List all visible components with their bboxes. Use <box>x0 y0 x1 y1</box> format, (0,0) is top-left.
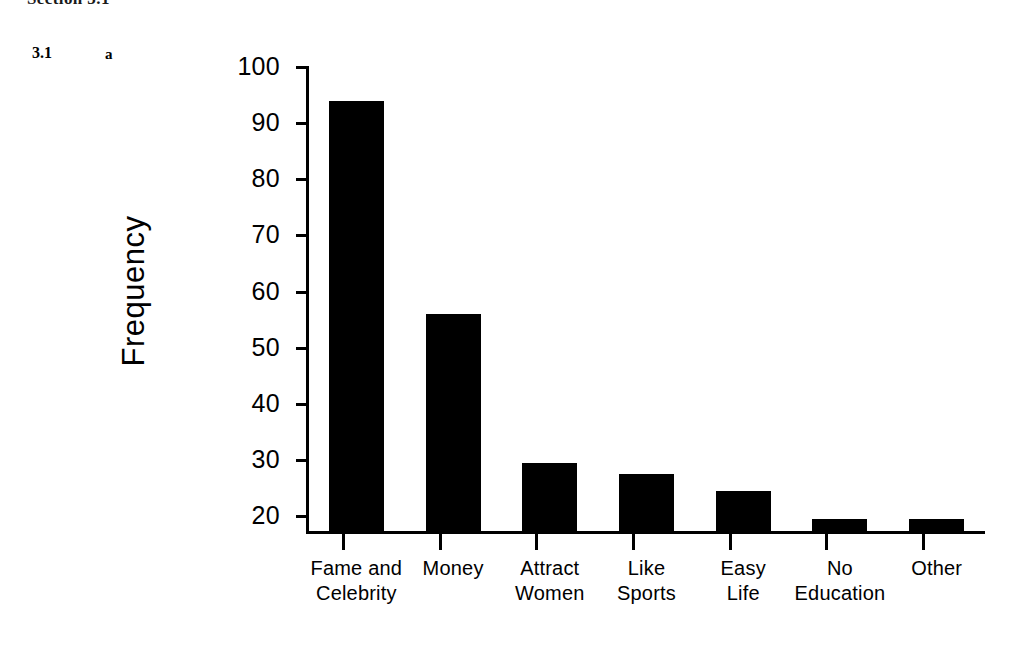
y-axis-title: Frequency <box>117 181 151 401</box>
y-tick-label: 100 <box>216 54 280 79</box>
bar <box>522 463 577 533</box>
y-tick-label: 50 <box>216 335 280 360</box>
bar <box>426 314 481 533</box>
x-tick-mark <box>729 534 732 550</box>
y-tick-label: 20 <box>216 503 280 528</box>
bar <box>716 491 771 533</box>
x-tick-mark <box>439 534 442 550</box>
y-tick-label: 90 <box>216 110 280 135</box>
bar <box>619 474 674 533</box>
y-tick-label: 80 <box>216 166 280 191</box>
x-tick-mark <box>825 534 828 550</box>
y-tick-label: 70 <box>216 222 280 247</box>
x-tick-mark <box>342 534 345 550</box>
bar <box>909 519 964 533</box>
x-tick-mark <box>632 534 635 550</box>
bar <box>812 519 867 533</box>
y-tick-label: 60 <box>216 279 280 304</box>
x-category-label: Other <box>872 556 1002 581</box>
frequency-bar-chart: Frequency 1009080706050403020 Fame andCe… <box>0 0 1025 647</box>
x-tick-mark <box>535 534 538 550</box>
x-tick-mark <box>922 534 925 550</box>
bar <box>329 101 384 533</box>
y-tick-label: 40 <box>216 391 280 416</box>
y-tick-label: 30 <box>216 447 280 472</box>
y-axis-line <box>306 66 309 534</box>
